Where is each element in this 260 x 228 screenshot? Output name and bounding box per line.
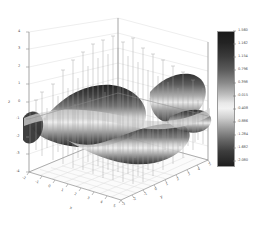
z-tick-label-1: 1 bbox=[18, 82, 20, 86]
colorbar-label-0: 1.560 bbox=[238, 29, 248, 33]
z-axis-label: z bbox=[8, 99, 10, 104]
colorbar-label-9: -1.682 bbox=[237, 146, 248, 150]
colorbar-label-3: 0.796 bbox=[238, 68, 248, 72]
z-tick-label-3: 3 bbox=[18, 47, 20, 51]
colorbar-label-1: 1.162 bbox=[238, 42, 248, 46]
axes-3d: 4 3 2 1 0 -1 -2 -3 -4 z -2 -1 0 1 2 3 4 … bbox=[0, 0, 215, 228]
colorbar-label-2: 1.154 bbox=[238, 55, 248, 59]
z-tick-label-2: 2 bbox=[18, 65, 20, 69]
z-tick-label-m4: -4 bbox=[16, 170, 19, 174]
colorbar-label-10: -2.080 bbox=[237, 159, 248, 163]
z-tick-label-m1: -1 bbox=[16, 117, 19, 121]
colorbar-label-4: 0.398 bbox=[238, 81, 248, 85]
colorbar-label-6: -0.408 bbox=[237, 107, 248, 111]
figure-3d-surface-plot: 4 3 2 1 0 -1 -2 -3 -4 z -2 -1 0 1 2 3 4 … bbox=[0, 0, 260, 228]
axes-frame bbox=[0, 0, 215, 228]
z-tick-label-m2: -2 bbox=[16, 135, 19, 139]
colorbar-label-7: -0.886 bbox=[237, 120, 248, 124]
z-tick-label-0: 0 bbox=[18, 100, 20, 104]
z-tick-label-m3: -3 bbox=[16, 152, 19, 156]
z-tick-label-4: 4 bbox=[18, 30, 20, 34]
colorbar-gradient bbox=[218, 32, 234, 166]
z-axis-ticks bbox=[26, 32, 29, 172]
colorbar-label-8: -1.284 bbox=[237, 133, 248, 137]
colorbar-label-5: -0.015 bbox=[237, 94, 248, 98]
